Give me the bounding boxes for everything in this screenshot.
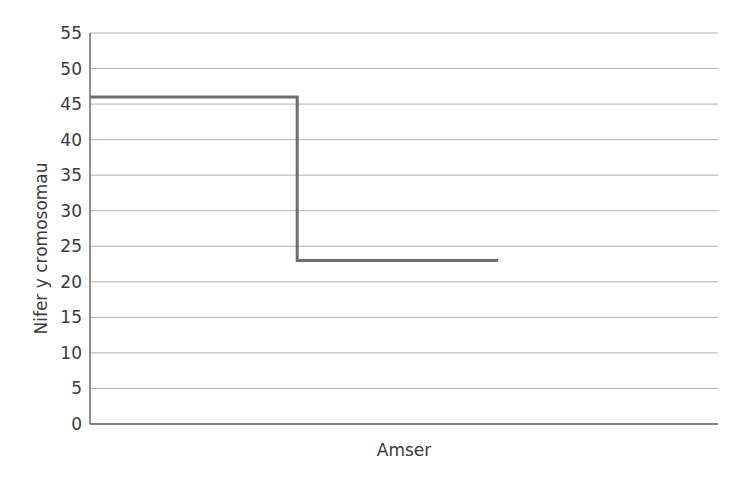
y-tick-label: 45 — [60, 94, 82, 114]
y-tick-label: 50 — [60, 59, 82, 79]
x-axis-title: Amser — [377, 440, 432, 460]
y-tick-label: 5 — [71, 378, 82, 398]
chromosome-count-line — [90, 97, 498, 261]
y-tick-label: 55 — [60, 23, 82, 43]
y-tick-label: 15 — [60, 307, 82, 327]
y-tick-label: 30 — [60, 201, 82, 221]
y-axis-tick-labels: 0510152025303540455055 — [60, 23, 82, 434]
y-tick-label: 0 — [71, 414, 82, 434]
y-tick-label: 10 — [60, 343, 82, 363]
gridlines — [90, 33, 718, 388]
chart: 0510152025303540455055 Amser Nifer y cro… — [0, 0, 747, 482]
y-tick-label: 40 — [60, 130, 82, 150]
y-tick-label: 20 — [60, 272, 82, 292]
y-tick-label: 25 — [60, 236, 82, 256]
y-axis-title: Nifer y cromosomau — [31, 162, 51, 334]
y-tick-label: 35 — [60, 165, 82, 185]
